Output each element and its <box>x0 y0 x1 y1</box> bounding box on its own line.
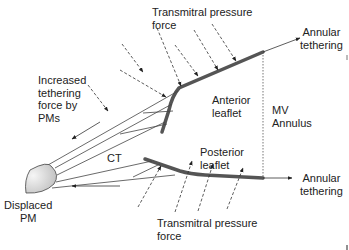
anterior-leaflet <box>162 52 263 132</box>
label-line: Annular <box>300 26 343 39</box>
posterior-leaflet-label: Posterior leaflet <box>200 146 244 171</box>
ct-label: CT <box>107 152 122 165</box>
label-line: Posterior <box>200 146 244 159</box>
label-line: leaflet <box>212 107 251 120</box>
annular-tethering-bottom-label: Annular tethering <box>300 172 343 197</box>
increased-tethering-pointer <box>88 85 108 111</box>
displaced-papillary-muscle <box>26 164 57 193</box>
label-line: leaflet <box>200 159 244 172</box>
label-line: Annular <box>300 172 343 185</box>
label-line: Transmitral pressure <box>157 217 257 230</box>
annular-tethering-top-label: Annular tethering <box>300 26 343 51</box>
label-line: PM <box>4 212 52 225</box>
increased-tethering-label: Increased tethering force by PMs <box>38 74 86 124</box>
mitral-tethering-diagram: Transmitral pressure force Annular tethe… <box>0 0 349 250</box>
transmitral-top-label: Transmitral pressure force <box>152 6 252 31</box>
label-line: force by <box>38 99 86 112</box>
annular-tethering-top-arrow <box>263 38 300 52</box>
pm-tether-arrow-upper <box>72 122 100 139</box>
label-line: force <box>157 230 257 243</box>
transmitral-bottom-label: Transmitral pressure force <box>157 217 257 242</box>
displaced-pm-label: Displaced PM <box>4 199 52 224</box>
label-line: MV <box>272 104 312 117</box>
label-line: tethering <box>300 185 343 198</box>
label-line: Increased <box>38 74 86 87</box>
anterior-leaflet-label: Anterior leaflet <box>212 94 251 119</box>
label-line: force <box>152 19 252 32</box>
label-line: tethering <box>38 87 86 100</box>
label-line: Anterior <box>212 94 251 107</box>
label-line: Annulus <box>272 117 312 130</box>
label-line: tethering <box>300 39 343 52</box>
label-line: PMs <box>38 112 86 125</box>
label-line: Transmitral pressure <box>152 6 252 19</box>
mv-annulus-label: MV Annulus <box>272 104 312 129</box>
label-line: Displaced <box>4 199 52 212</box>
transmitral-pressure-arrows-top <box>120 24 236 97</box>
